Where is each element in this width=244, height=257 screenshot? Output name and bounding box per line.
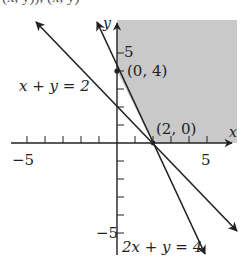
y-tick-label-neg5: −5 <box>96 224 118 242</box>
point-2-0 <box>151 141 156 146</box>
equation-label-2x-plus-y-eq-4: 2x + y = 4 <box>121 238 202 256</box>
point-label-0-4: (0, 4) <box>127 62 167 80</box>
graph: x y −5 5 5 −5 (0, 4) (2, 0) x + y = 2 2x… <box>0 0 244 257</box>
point-0-4 <box>114 68 119 73</box>
x-axis-label: x <box>229 124 237 140</box>
x-tick-label-neg5: −5 <box>12 151 34 169</box>
y-tick-label-5: 5 <box>124 43 134 61</box>
x-tick-label-5: 5 <box>201 151 211 169</box>
point-label-2-0: (2, 0) <box>156 120 196 138</box>
equation-label-x-plus-y-eq-2: x + y = 2 <box>19 77 90 95</box>
y-axis-label: y <box>102 15 112 31</box>
